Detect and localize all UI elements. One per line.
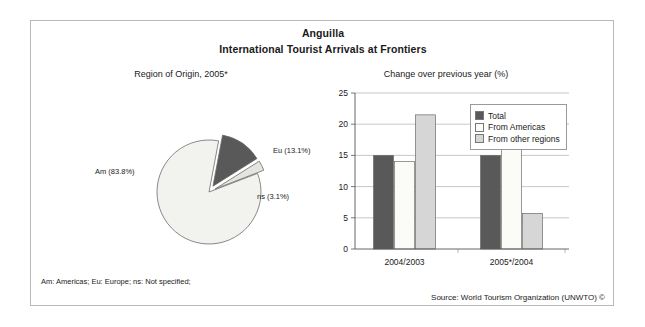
footnote: Am: Americas; Eu: Europe; ns: Not specif… [41,277,191,286]
bar-from-americas-1 [395,162,415,249]
source-note: Source: World Tourism Organization (UNWT… [431,293,605,302]
legend-item: Total [475,111,560,121]
legend-label-from-other-regions: From other regions [488,134,560,144]
page-subtitle: International Tourist Arrivals at Fronti… [31,43,615,55]
y-axis-tick-label: 5 [343,213,348,223]
bar-chart-legend: Total From Americas From other regions [470,104,567,150]
bar-total-2 [481,155,501,249]
bar-chart: 0510152025 2004/20032005*/2004 Total Fro… [327,81,597,291]
legend-item: From Americas [475,122,560,132]
y-axis-tick-label: 0 [343,244,348,254]
pie-chart-svg [91,83,321,273]
legend-label-from-americas: From Americas [488,122,545,132]
page-title: Anguilla [31,27,615,39]
x-axis-category-label: 2004/2003 [384,257,424,267]
x-axis-category-label: 2005*/2004 [490,257,534,267]
pie-label-eu: Eu (13.1%) [273,146,311,155]
y-axis-tick-label: 15 [339,150,349,160]
pie-chart-title: Region of Origin, 2005* [91,69,271,79]
pie-label-am: Am (83.8%) [95,167,135,176]
pie-chart: Am (83.8%) Eu (13.1%) ns (3.1%) [91,83,321,273]
bar-chart-title: Change over previous year (%) [331,69,561,79]
bar-from-other-regions-2 [523,213,543,249]
figure-frame: Anguilla International Tourist Arrivals … [30,20,614,306]
legend-swatch-from-americas [475,123,484,132]
figure-root: Anguilla International Tourist Arrivals … [0,0,645,327]
legend-label-total: Total [488,111,506,121]
bar-from-americas-2 [502,149,522,249]
y-axis-tick-label: 10 [339,182,349,192]
bar-total-1 [374,155,394,249]
pie-label-ns: ns (3.1%) [257,192,289,201]
y-axis-tick-label: 20 [339,119,349,129]
legend-swatch-from-other-regions [475,134,484,143]
legend-item: From other regions [475,134,560,144]
legend-swatch-total [475,111,484,120]
y-axis-tick-label: 25 [339,88,349,98]
bar-from-other-regions-1 [416,115,436,249]
